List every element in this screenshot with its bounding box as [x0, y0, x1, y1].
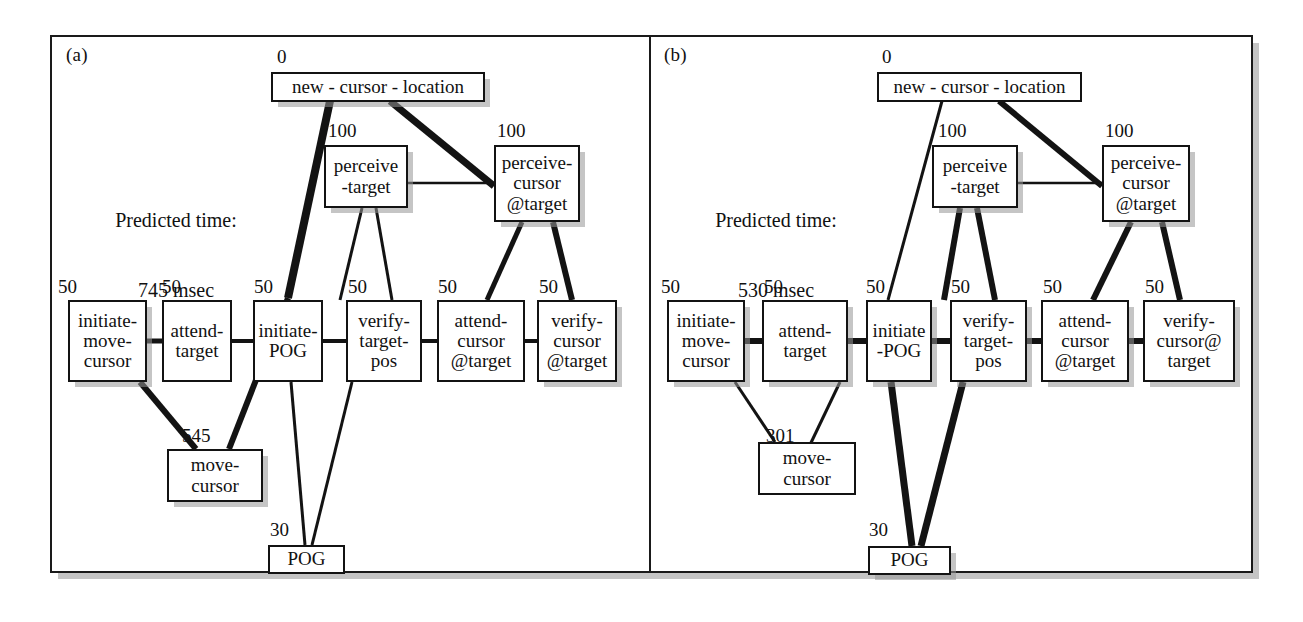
time-label-a-verify-cursor-at-target: 50 — [539, 276, 558, 298]
node-b-attend-cursor-at-target[interactable]: attend- cursor @target — [1041, 300, 1129, 382]
time-label-a-initiate-pog: 50 — [254, 276, 273, 298]
time-label-a-move-cursor: 545 — [182, 425, 211, 447]
node-b-move-cursor[interactable]: move- cursor — [758, 442, 856, 495]
node-a-move-cursor[interactable]: move- cursor — [167, 449, 263, 502]
time-label-b-new-cursor-location: 0 — [882, 46, 892, 68]
panel-divider — [649, 35, 651, 573]
time-label-b-pog: 30 — [869, 519, 888, 541]
time-label-a-attend-cursor-at-target: 50 — [438, 276, 457, 298]
time-label-b-verify-cursor-at-target: 50 — [1145, 276, 1164, 298]
node-a-new-cursor-location[interactable]: new - cursor - location — [271, 72, 485, 102]
time-label-a-verify-target-pos: 50 — [348, 276, 367, 298]
node-a-pog[interactable]: POG — [268, 545, 345, 574]
time-label-a-initiate-move-cursor: 50 — [58, 276, 77, 298]
time-label-a-perceive-cursor-at-target: 100 — [497, 120, 526, 142]
node-b-verify-target-pos[interactable]: verify- target- pos — [950, 300, 1027, 382]
node-a-initiate-pog[interactable]: initiate- POG — [253, 300, 323, 382]
time-label-b-perceive-target: 100 — [938, 120, 967, 142]
time-label-b-move-cursor: 301 — [766, 425, 795, 447]
time-label-b-attend-target: 50 — [764, 276, 783, 298]
panel-a-predicted-time-label: Predicted time: — [76, 203, 276, 238]
time-label-a-perceive-target: 100 — [328, 120, 357, 142]
node-b-attend-target[interactable]: attend- target — [762, 300, 848, 382]
panel-a-label: (a) — [66, 44, 88, 66]
panel-b-label: (b) — [664, 44, 687, 66]
node-a-verify-cursor-at-target[interactable]: verify- cursor @target — [537, 300, 617, 382]
node-b-perceive-cursor-at-target[interactable]: perceive- cursor @target — [1102, 145, 1190, 222]
panel-b-predicted-time-label: Predicted time: — [676, 203, 876, 238]
time-label-b-initiate-pog: 50 — [866, 276, 885, 298]
node-b-new-cursor-location[interactable]: new - cursor - location — [877, 72, 1082, 102]
node-a-verify-target-pos[interactable]: verify- target- pos — [346, 300, 422, 382]
node-b-pog[interactable]: POG — [868, 546, 951, 575]
node-a-perceive-target[interactable]: perceive -target — [324, 145, 408, 208]
figure-root: (a) Predicted time: 745 msec 0 100 100 5… — [0, 0, 1303, 622]
time-label-a-pog: 30 — [270, 519, 289, 541]
time-label-b-perceive-cursor-at-target: 100 — [1105, 120, 1134, 142]
node-a-attend-cursor-at-target[interactable]: attend- cursor @target — [437, 300, 525, 382]
node-a-perceive-cursor-at-target[interactable]: perceive- cursor @target — [494, 145, 580, 222]
node-b-verify-cursor-at-target[interactable]: verify- cursor@ target — [1143, 300, 1235, 382]
time-label-b-attend-cursor-at-target: 50 — [1043, 276, 1062, 298]
node-b-perceive-target[interactable]: perceive -target — [932, 145, 1018, 208]
time-label-a-attend-target: 50 — [162, 276, 181, 298]
time-label-b-initiate-move-cursor: 50 — [661, 276, 680, 298]
node-a-initiate-move-cursor[interactable]: initiate- move- cursor — [68, 300, 147, 382]
time-label-a-new-cursor-location: 0 — [277, 46, 287, 68]
time-label-b-verify-target-pos: 50 — [951, 276, 970, 298]
node-b-initiate-pog[interactable]: initiate -POG — [866, 300, 932, 382]
node-a-attend-target[interactable]: attend- target — [162, 300, 232, 382]
node-b-initiate-move-cursor[interactable]: initiate- move- cursor — [667, 300, 745, 382]
